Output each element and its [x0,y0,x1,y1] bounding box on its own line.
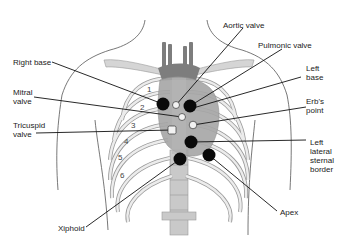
left-base-point [184,100,197,113]
label-tricuspid-valve: Tricuspid valve [13,121,45,139]
label-aortic-valve: Aortic valve [223,21,264,30]
label-right-base: Right base [13,58,51,67]
svg-text:6: 6 [120,171,125,180]
left-lateral-sternal-border-point [185,136,198,149]
mitral-valve-marker [179,114,186,121]
label-apex: Apex [280,208,298,217]
right-base-point [157,98,170,111]
label-left-base: Left base [306,64,323,82]
erbs-point-valve-marker [189,121,197,129]
tricuspid-valve-marker [168,126,176,134]
svg-text:4: 4 [124,137,129,146]
svg-text:1: 1 [147,85,152,94]
svg-text:5: 5 [118,153,123,162]
aortic-valve-marker [173,102,180,109]
label-left-lateral-sternal-border: Left lateral sternal border [310,138,334,174]
xiphoid-point [174,153,187,166]
svg-text:3: 3 [131,121,136,130]
apex-point [203,149,216,162]
label-pulmonic-valve: Pulmonic valve [258,41,312,50]
great-vessels [158,42,200,80]
svg-text:2: 2 [140,103,145,112]
label-xiphoid: Xiphoid [58,224,85,233]
label-mitral-valve: Mitral valve [13,88,33,106]
label-erbs-point: Erb's point [306,97,324,115]
